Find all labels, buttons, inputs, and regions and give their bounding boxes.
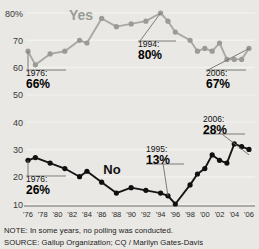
data-point-yes <box>239 57 244 62</box>
data-point-yes <box>84 40 89 45</box>
x-axis-tick: '84 <box>82 210 92 219</box>
y-axis-tick: 30 <box>13 145 23 155</box>
y-axis-tick: 80% <box>5 9 23 19</box>
data-point-no <box>246 147 251 152</box>
series-label-yes: Yes <box>69 7 93 23</box>
data-point-no <box>33 155 38 160</box>
x-axis-tick: '04 <box>229 210 239 219</box>
annotation-yes-2006: 2006:67% <box>206 48 249 91</box>
chart-source: SOURCE: Gallup Organization; CQ / Marily… <box>4 238 203 247</box>
data-point-yes <box>195 49 200 54</box>
data-point-no <box>173 201 178 206</box>
annotation-leader <box>222 134 249 155</box>
x-axis-tick: '88 <box>112 210 122 219</box>
x-axis-tick: '92 <box>141 210 151 219</box>
series-label-no: No <box>103 162 120 177</box>
data-point-no <box>84 169 89 174</box>
data-point-no <box>158 190 163 195</box>
data-point-yes <box>202 46 207 51</box>
data-point-no <box>187 182 192 187</box>
x-axis-tick: '96 <box>170 210 180 219</box>
data-point-yes <box>173 29 178 34</box>
x-axis-tick: '02 <box>215 210 225 219</box>
annotation-value: 28% <box>203 123 227 137</box>
x-axis-tick: '76 <box>23 210 33 219</box>
data-point-no <box>195 171 200 176</box>
data-point-no <box>202 166 207 171</box>
data-point-no <box>48 160 53 165</box>
data-point-yes <box>99 16 104 21</box>
data-point-yes <box>143 19 148 24</box>
x-axis-tick: '78 <box>38 210 48 219</box>
x-axis-tick: '94 <box>156 210 166 219</box>
chart-canvas: 80%70605040302010'76'78'80'82'84'86'88'9… <box>0 0 259 249</box>
annotation-value: 67% <box>206 77 230 91</box>
data-point-yes <box>33 62 38 67</box>
data-point-no <box>129 185 134 190</box>
annotation-leader <box>163 164 168 196</box>
y-axis-tick: 70 <box>13 36 23 46</box>
chart-note: NOTE: In some years, no polling was cond… <box>4 226 173 235</box>
data-point-no <box>114 190 119 195</box>
data-point-no <box>239 144 244 149</box>
annotation-no-1995: 1995:13% <box>146 144 184 196</box>
data-point-no <box>217 158 222 163</box>
x-axis-tick: '98 <box>185 210 195 219</box>
data-point-no <box>77 174 82 179</box>
annotation-value: 13% <box>146 153 170 167</box>
data-point-no <box>143 188 148 193</box>
data-point-no <box>210 152 215 157</box>
data-point-yes <box>187 38 192 43</box>
data-point-no <box>62 166 67 171</box>
data-point-yes <box>129 21 134 26</box>
x-axis-tick: '00 <box>200 210 210 219</box>
annotation-value: 26% <box>26 183 50 197</box>
x-axis-tick: '82 <box>67 210 77 219</box>
annotation-value: 66% <box>26 77 50 91</box>
y-axis-tick: 40 <box>13 118 23 128</box>
y-axis-tick: 10 <box>13 200 23 210</box>
data-point-yes <box>210 49 215 54</box>
data-point-yes <box>77 38 82 43</box>
data-point-no <box>99 180 104 185</box>
x-axis-tick: '06 <box>244 210 254 219</box>
series-line-no <box>28 144 249 204</box>
x-axis-tick: '86 <box>97 210 107 219</box>
y-axis-tick: 20 <box>13 172 23 182</box>
y-axis-tick: 60 <box>13 63 23 73</box>
data-point-yes <box>217 40 222 45</box>
data-point-yes <box>62 49 67 54</box>
y-axis-tick: 50 <box>13 90 23 100</box>
data-point-yes <box>48 51 53 56</box>
annotation-value: 80% <box>138 48 162 62</box>
data-point-no <box>224 160 229 165</box>
x-axis-tick: '80 <box>53 210 63 219</box>
x-axis-tick: '90 <box>126 210 136 219</box>
data-point-yes <box>114 24 119 29</box>
poll-trend-chart: 80%70605040302010'76'78'80'82'84'86'88'9… <box>0 0 259 249</box>
data-point-yes <box>165 19 170 24</box>
annotation-leader <box>140 13 161 41</box>
